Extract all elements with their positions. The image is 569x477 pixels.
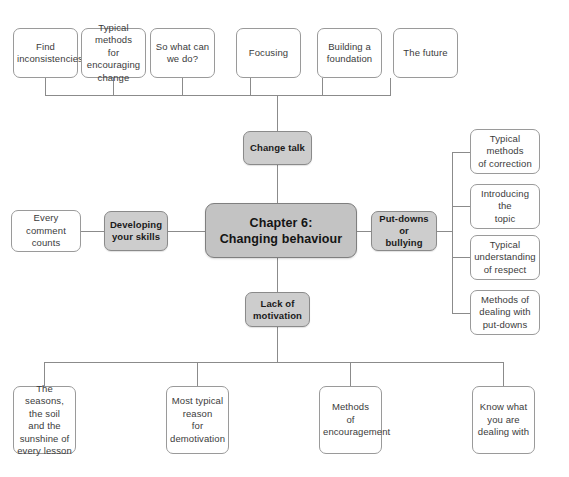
leaf-label: The future	[397, 47, 454, 60]
connector-right-bus	[452, 152, 453, 314]
connector-bottom-bus	[44, 362, 503, 363]
leaf-typical-understanding-of-respect[interactable]: Typical understanding of respect	[470, 235, 540, 280]
leaf-methods-of-dealing-with-put-downs[interactable]: Methods of dealing with put-downs	[470, 290, 540, 335]
leaf-know-what-you-are-dealing-with[interactable]: Know what you are dealing with	[472, 386, 535, 454]
leaf-label: Methods of encouragement	[323, 401, 378, 439]
connector-top-drop-6	[390, 78, 391, 96]
branch-label: Developing your skills	[108, 219, 164, 243]
leaf-typical-methods-for-encouraging-change[interactable]: Typical methods for encouraging change	[81, 28, 146, 78]
connector-top-drop-1	[45, 78, 46, 96]
center-title-line-1: Chapter 6:	[209, 215, 353, 231]
connector-center-to-lack-of-motivation	[277, 258, 278, 292]
center-title-line-2: Changing behaviour	[209, 231, 353, 247]
branch-label: Change talk	[247, 142, 308, 154]
leaf-methods-of-encouragement[interactable]: Methods of encouragement	[319, 386, 382, 454]
leaf-label: Every comment counts	[15, 212, 77, 250]
connector-right-stub-3	[452, 257, 471, 258]
connector-bottom-drop-2	[197, 362, 198, 386]
leaf-typical-methods-of-correction[interactable]: Typical methods of correction	[470, 129, 540, 174]
connector-center-to-put-downs	[356, 231, 371, 232]
connector-developing-to-every-comment	[81, 231, 104, 232]
leaf-label: The seasons, the soil and the sunshine o…	[17, 383, 72, 458]
leaf-label: Typical understanding of respect	[474, 239, 536, 277]
connector-top-drop-4	[250, 78, 251, 96]
connector-center-to-developing	[168, 231, 206, 232]
leaf-the-seasons-the-soil[interactable]: The seasons, the soil and the sunshine o…	[13, 386, 76, 454]
leaf-find-inconsistencies[interactable]: Find inconsistencies	[13, 28, 78, 78]
leaf-label: Focusing	[240, 47, 297, 60]
connector-top-drop-3	[182, 78, 183, 96]
leaf-label: Introducing the topic	[474, 188, 536, 226]
leaf-so-what-can-we-do[interactable]: So what can we do?	[150, 28, 215, 78]
branch-label: Put-downs or bullying	[375, 213, 433, 249]
connector-top-bus	[45, 95, 391, 96]
leaf-label: Typical methods for encouraging change	[85, 22, 142, 85]
branch-change-talk[interactable]: Change talk	[243, 131, 312, 165]
connector-lack-to-bottom-bus	[277, 327, 278, 362]
connector-right-stub-2	[452, 206, 471, 207]
connector-top-bus-to-change-talk	[277, 95, 278, 131]
leaf-label: Typical methods of correction	[474, 133, 536, 171]
leaf-label: Find inconsistencies	[17, 41, 74, 66]
leaf-focusing[interactable]: Focusing	[236, 28, 301, 78]
leaf-label: Methods of dealing with put-downs	[474, 294, 536, 332]
leaf-label: Know what you are dealing with	[476, 401, 531, 439]
leaf-building-a-foundation[interactable]: Building a foundation	[317, 28, 382, 78]
branch-label: Lack of motivation	[249, 298, 306, 322]
branch-lack-of-motivation[interactable]: Lack of motivation	[245, 292, 310, 327]
connector-bottom-drop-4	[503, 362, 504, 386]
leaf-introducing-the-topic[interactable]: Introducing the topic	[470, 184, 540, 229]
connector-bottom-drop-3	[350, 362, 351, 386]
leaf-every-comment-counts[interactable]: Every comment counts	[11, 210, 81, 252]
branch-developing-your-skills[interactable]: Developing your skills	[104, 211, 168, 251]
branch-put-downs-or-bullying[interactable]: Put-downs or bullying	[371, 211, 437, 251]
center-node-chapter-6[interactable]: Chapter 6: Changing behaviour	[205, 203, 357, 258]
leaf-label: Building a foundation	[321, 41, 378, 66]
connector-right-stub-1	[452, 152, 471, 153]
connector-right-stub-4	[452, 313, 471, 314]
leaf-label: So what can we do?	[154, 41, 211, 66]
leaf-label: Most typical reason for demotivation	[170, 395, 225, 445]
leaf-most-typical-reason-for-demotivation[interactable]: Most typical reason for demotivation	[166, 386, 229, 454]
mind-map-canvas: Find inconsistencies Typical methods for…	[0, 0, 569, 477]
connector-change-talk-to-center	[277, 165, 278, 204]
connector-put-downs-to-bus	[437, 231, 453, 232]
leaf-the-future[interactable]: The future	[393, 28, 458, 78]
connector-top-drop-5	[322, 78, 323, 96]
